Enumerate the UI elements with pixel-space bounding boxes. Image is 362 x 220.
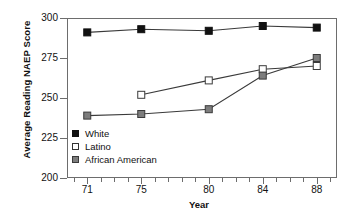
naep-reading-score-chart: Average Reading NAEP Score Year 20022525… [0,0,362,220]
legend-item-white: White [72,127,157,140]
x-tick-minor [128,178,129,182]
x-tick-minor [276,178,277,182]
x-tick-minor [168,178,169,182]
x-axis-title: Year [60,199,338,210]
y-axis-title: Average Reading NAEP Score [21,10,32,170]
x-tick-minor [74,178,75,182]
y-tick [60,178,67,179]
x-tick-minor [290,178,291,182]
x-tick-minor [182,178,183,182]
x-tick-minor [155,178,156,182]
legend-label-white: White [85,129,109,139]
x-tick-minor [236,178,237,182]
x-tick-label: 71 [72,185,102,195]
y-tick-label: 250 [12,93,58,103]
x-tick-label: 75 [126,185,156,195]
x-tick-minor [249,178,250,182]
x-tick-minor [330,178,331,182]
gray-square-icon [72,156,79,163]
legend-label-african-american: African American [85,155,157,165]
open-square-icon [72,143,79,150]
x-tick-label: 84 [248,185,278,195]
y-tick-label: 200 [12,173,58,183]
x-tick-minor [114,178,115,182]
x-tick-minor [222,178,223,182]
x-tick-minor [303,178,304,182]
x-tick-minor [195,178,196,182]
legend: White Latino African American [72,127,157,166]
y-tick [60,138,67,139]
x-tick-label: 80 [194,185,224,195]
filled-square-icon [72,130,79,137]
x-tick-label: 88 [302,185,332,195]
y-tick [60,98,67,99]
x-tick-minor [101,178,102,182]
legend-item-latino: Latino [72,140,157,153]
legend-label-latino: Latino [85,142,111,152]
legend-item-african-american: African American [72,153,157,166]
y-tick-label: 300 [12,13,58,23]
y-tick-label: 225 [12,133,58,143]
y-tick-label: 275 [12,53,58,63]
y-tick [60,58,67,59]
y-tick [60,18,67,19]
